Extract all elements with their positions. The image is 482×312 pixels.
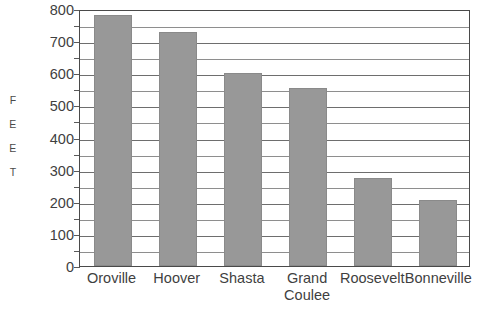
x-axis-tick-label-line: Bonneville: [405, 270, 472, 286]
x-axis-tick-label-line: Roosevelt: [340, 270, 404, 286]
plot-area: [79, 10, 470, 267]
x-axis-tick-label-line: Coulee: [275, 287, 340, 304]
x-axis-tick-label-line: Shasta: [219, 270, 264, 286]
x-axis-tick-label: Roosevelt: [340, 270, 405, 287]
y-axis-title-letter: F: [4, 88, 22, 112]
bar: [94, 15, 132, 266]
y-axis-title-letter: T: [4, 160, 22, 184]
y-axis-tick-labels: 8007006005004003002001000: [28, 0, 74, 312]
x-axis-tick-label-line: Hoover: [153, 270, 200, 286]
y-axis-tick-mark: [74, 267, 80, 268]
bar: [419, 200, 457, 266]
bars-layer: [80, 11, 469, 266]
bar-chart: F E E T 8007006005004003002001000 Orovil…: [0, 0, 482, 312]
y-axis-title: F E E T: [4, 88, 22, 184]
y-axis-tick-label: 400: [28, 132, 74, 147]
bar: [159, 32, 197, 267]
y-axis-tick-label: 0: [28, 260, 74, 275]
y-axis-tick-label: 800: [28, 3, 74, 18]
y-axis-tick-label: 200: [28, 196, 74, 211]
x-axis-tick-label: Hoover: [144, 270, 209, 287]
x-axis-tick-label: Bonneville: [405, 270, 470, 287]
x-axis-tick-labels: OrovilleHooverShastaGrandCouleeRoosevelt…: [79, 270, 470, 312]
y-axis-tick-label: 600: [28, 67, 74, 82]
y-axis-tick-label: 700: [28, 35, 74, 50]
x-axis-tick-label-line: Oroville: [87, 270, 136, 286]
y-axis-title-letter: E: [4, 136, 22, 160]
bar: [289, 88, 327, 266]
y-axis-title-letter: E: [4, 112, 22, 136]
bar: [354, 178, 392, 266]
y-axis-tick-label: 300: [28, 164, 74, 179]
x-axis-tick-label: GrandCoulee: [275, 270, 340, 304]
x-axis-tick-label: Oroville: [79, 270, 144, 287]
x-axis-tick-label-line: Grand: [287, 270, 327, 286]
y-axis-tick-label: 500: [28, 99, 74, 114]
bar: [224, 73, 262, 266]
x-axis-tick-label: Shasta: [209, 270, 274, 287]
y-axis-tick-label: 100: [28, 228, 74, 243]
